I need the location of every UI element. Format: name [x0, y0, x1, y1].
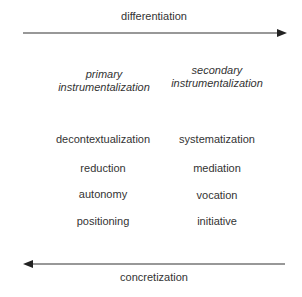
secondary-item: vocation: [197, 189, 238, 202]
secondary-item: mediation: [193, 162, 241, 175]
secondary-heading-line2: instrumentalization: [171, 77, 263, 90]
concretization-label: concretization: [120, 271, 188, 284]
primary-heading-line2: instrumentalization: [58, 81, 150, 94]
primary-item: autonomy: [79, 188, 127, 201]
secondary-item: systematization: [179, 133, 255, 146]
concretization-arrow: [23, 260, 285, 268]
differentiation-arrow: [23, 29, 287, 37]
differentiation-label: differentiation: [121, 10, 187, 23]
primary-item: positioning: [77, 215, 130, 228]
primary-item: reduction: [80, 162, 125, 175]
secondary-item: initiative: [197, 215, 237, 228]
primary-item: decontextualization: [56, 133, 150, 146]
secondary-heading-line1: secondary: [192, 64, 243, 77]
arrows-layer: [0, 0, 302, 297]
primary-heading-line1: primary: [86, 68, 123, 81]
